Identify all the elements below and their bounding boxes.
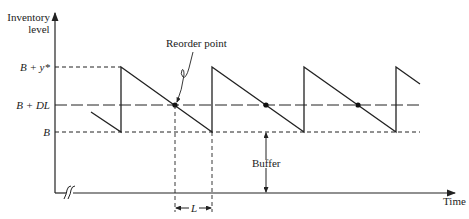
inventory-sawtooth-diagram: L Buffer Reorder point Inventory level T… [0,0,469,219]
level-label-buffer: B [43,126,50,138]
buffer-label: Buffer [252,157,281,169]
reorder-callout-squiggle [177,52,193,102]
inventory-curve [91,67,420,132]
level-label-top: B + y* [20,61,51,73]
reorder-dot [355,102,360,107]
level-label-reorder: B + DL [16,99,50,111]
y-axis-label-line1: Inventory [7,11,50,23]
x-axis-label: Time [443,195,466,207]
lead-time-label: L [190,202,197,214]
reorder-point-label: Reorder point [166,37,227,49]
y-axis-label-line2: level [28,23,49,35]
reorder-dot [263,102,268,107]
